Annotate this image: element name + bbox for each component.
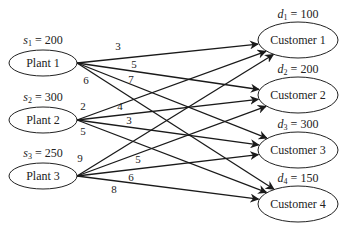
edge-p3-c3 (77, 155, 258, 176)
edge-cost-label: 6 (83, 74, 89, 86)
customer-node-2: Customer 2d2 = 200 (258, 62, 338, 113)
edge-p1-c4 (77, 63, 274, 189)
edge-p1-c3 (77, 63, 267, 138)
edge-cost-label: 5 (135, 153, 141, 165)
plant-node-3: Plant 3s3 = 250 (9, 146, 77, 189)
demand-label: d3 = 300 (278, 117, 319, 132)
customer-node-1: Customer 1d1 = 100 (258, 7, 338, 58)
edges-layer (77, 44, 274, 199)
demand-label: d4 = 150 (278, 171, 319, 186)
demand-label: d1 = 100 (278, 7, 319, 22)
edge-cost-label: 3 (115, 40, 121, 52)
plant-label: Plant 3 (26, 169, 60, 183)
edge-cost-label: 4 (117, 100, 123, 112)
edge-cost-label: 6 (128, 171, 134, 183)
demand-label: d2 = 200 (278, 62, 319, 77)
plant-node-1: Plant 1s1 = 200 (9, 33, 77, 76)
customer-label: Customer 3 (270, 143, 326, 157)
edge-cost-label: 5 (80, 125, 86, 137)
edge-cost-label: 5 (131, 58, 137, 70)
plant-label: Plant 2 (26, 113, 60, 127)
edge-cost-label: 2 (80, 100, 86, 112)
supply-label: s3 = 250 (23, 146, 62, 161)
plant-label: Plant 1 (26, 56, 60, 70)
customer-label: Customer 1 (270, 33, 326, 47)
customer-nodes: Customer 1d1 = 100Customer 2d2 = 200Cust… (258, 7, 338, 222)
edge-cost-label: 7 (128, 73, 134, 85)
edge-p2-c4 (77, 120, 266, 192)
customer-label: Customer 2 (270, 88, 326, 102)
transportation-network-diagram: 357624359568 Plant 1s1 = 200Plant 2s2 = … (0, 0, 350, 238)
customer-node-3: Customer 3d3 = 300 (258, 117, 338, 168)
edge-p1-c2 (77, 63, 259, 89)
edge-cost-label: 9 (77, 152, 83, 164)
supply-label: s1 = 200 (23, 33, 62, 48)
customer-node-4: Customer 4d4 = 150 (258, 171, 338, 222)
customer-label: Customer 4 (270, 197, 326, 211)
edge-p1-c1 (77, 44, 258, 63)
supply-label: s2 = 300 (23, 90, 62, 105)
edge-cost-label: 8 (111, 183, 117, 195)
edge-cost-label: 3 (126, 114, 132, 126)
plant-node-2: Plant 2s2 = 300 (9, 90, 77, 133)
plant-nodes: Plant 1s1 = 200Plant 2s2 = 300Plant 3s3 … (9, 33, 77, 189)
